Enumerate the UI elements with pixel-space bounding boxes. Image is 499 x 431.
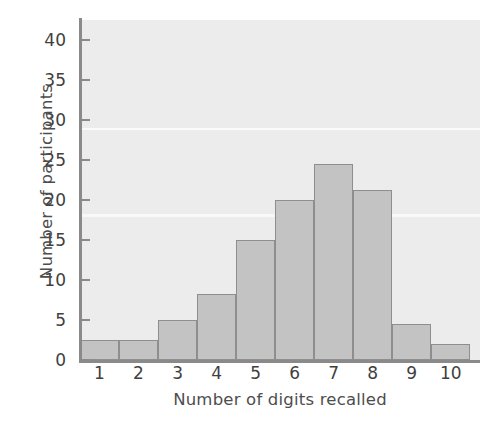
scanline-upper [80, 128, 480, 130]
x-tick-label: 3 [172, 363, 183, 383]
histogram-bar [392, 324, 431, 360]
histogram-figure: 0510152025303540 12345678910 Number of p… [0, 0, 499, 431]
x-tick-label: 10 [440, 363, 462, 383]
histogram-bar [431, 344, 470, 360]
histogram-bar [236, 240, 275, 360]
y-axis-line [79, 18, 82, 361]
x-tick-label: 2 [133, 363, 144, 383]
y-tick-mark [81, 359, 90, 361]
x-tick-label: 4 [211, 363, 222, 383]
x-tick-label: 8 [367, 363, 378, 383]
histogram-bar [158, 320, 197, 360]
x-tick-label: 7 [328, 363, 339, 383]
histogram-bar [353, 190, 392, 360]
x-tick-label: 1 [94, 363, 105, 383]
y-axis-title: Number of participants [37, 32, 56, 332]
x-tick-label: 5 [250, 363, 261, 383]
x-tick-label: 6 [289, 363, 300, 383]
y-tick-mark [81, 159, 90, 161]
y-tick-mark [81, 79, 90, 81]
histogram-bar [197, 294, 236, 360]
y-tick-mark [81, 39, 90, 41]
histogram-bar [80, 340, 119, 360]
y-tick-mark [81, 279, 90, 281]
y-tick-mark [81, 199, 90, 201]
histogram-bar [314, 164, 353, 360]
y-tick-mark [81, 319, 90, 321]
histogram-bar [275, 200, 314, 360]
y-tick-label: 0 [20, 350, 66, 370]
y-tick-mark [81, 119, 90, 121]
y-tick-mark [81, 239, 90, 241]
histogram-bar [119, 340, 158, 360]
x-tick-label: 9 [406, 363, 417, 383]
x-axis-title: Number of digits recalled [80, 390, 480, 409]
